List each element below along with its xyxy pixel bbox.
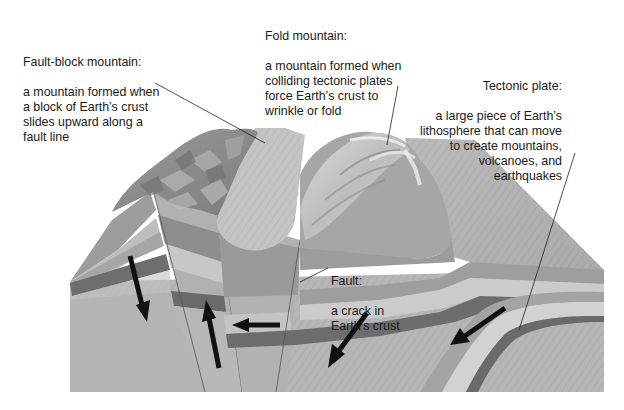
label-title: Fault-block mountain:	[23, 55, 159, 70]
label-description: a crack in Earth’s crust	[331, 304, 400, 334]
label-fold-mountain: Fold mountain: a mountain formed when co…	[265, 14, 401, 134]
label-fault-block-mountain: Fault-block mountain: a mountain formed …	[23, 40, 159, 160]
label-description: a large piece of Earth’s lithosphere tha…	[420, 109, 562, 184]
label-tectonic-plate: Tectonic plate: a large piece of Earth’s…	[420, 64, 562, 199]
label-title: Fold mountain:	[265, 29, 401, 44]
label-title: Tectonic plate:	[420, 79, 562, 94]
label-title: Fault:	[331, 274, 400, 289]
label-description: a mountain formed when colliding tectoni…	[265, 59, 401, 119]
label-fault: Fault: a crack in Earth’s crust	[331, 259, 400, 349]
label-description: a mountain formed when a block of Earth’…	[23, 85, 159, 145]
